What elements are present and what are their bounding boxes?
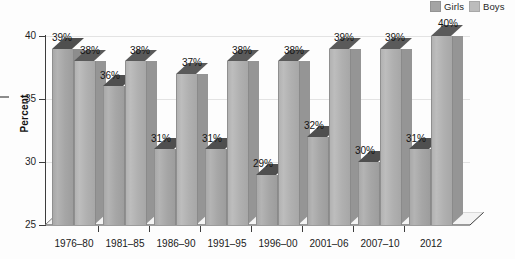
x-tick-label-2012: 2012 bbox=[405, 239, 457, 249]
data-label-girls-1996-00: 29% bbox=[253, 159, 273, 169]
bar-face bbox=[74, 61, 96, 225]
x-tick bbox=[200, 226, 201, 232]
data-label-girls-1981-85: 36% bbox=[100, 71, 120, 81]
bar-boys-1981-85[interactable] bbox=[125, 61, 145, 225]
data-label-boys-2007-10: 39% bbox=[385, 33, 405, 43]
data-label-girls-1976-80: 39% bbox=[52, 33, 72, 43]
bar-boys-1996-00[interactable] bbox=[278, 61, 298, 225]
y-tick-label-25: 25 bbox=[14, 220, 36, 230]
y-axis-line bbox=[45, 35, 46, 226]
bar-face bbox=[358, 162, 380, 225]
x-tick bbox=[149, 226, 150, 232]
bar-face bbox=[125, 61, 147, 225]
bar-face bbox=[256, 175, 278, 225]
bar-girls-1991-95[interactable] bbox=[205, 149, 225, 225]
data-label-girls-1991-95: 31% bbox=[202, 134, 222, 144]
bar-face bbox=[103, 86, 125, 225]
y-tick-label-30: 30 bbox=[14, 157, 36, 167]
y-tick-40 bbox=[39, 36, 45, 37]
bar-girls-1986-90[interactable] bbox=[154, 149, 174, 225]
bar-girls-1981-85[interactable] bbox=[103, 86, 123, 225]
y-tick-30 bbox=[39, 162, 45, 163]
x-tick-label-1991-95: 1991–95 bbox=[201, 239, 253, 249]
x-tick-label-1976-80: 1976–80 bbox=[48, 239, 100, 249]
data-label-boys-1986-90: 37% bbox=[182, 58, 202, 68]
bar-boys-2012[interactable] bbox=[431, 36, 451, 225]
bar-girls-2007-10[interactable] bbox=[358, 162, 378, 225]
y-axis-title: Percent bbox=[19, 84, 30, 144]
x-tick bbox=[353, 226, 354, 232]
data-label-boys-1981-85: 38% bbox=[130, 46, 150, 56]
bar-girls-1996-00[interactable] bbox=[256, 175, 276, 225]
data-label-boys-1996-00: 38% bbox=[284, 46, 304, 56]
y-tick-label-40: 40 bbox=[14, 31, 36, 41]
data-label-boys-1976-80: 38% bbox=[80, 46, 100, 56]
x-tick bbox=[404, 226, 405, 232]
bar-face bbox=[154, 149, 176, 225]
bar-boys-1976-80[interactable] bbox=[74, 61, 94, 225]
bar-face bbox=[278, 61, 300, 225]
x-tick-label-2001-06: 2001–06 bbox=[303, 239, 355, 249]
bar-face bbox=[52, 49, 74, 225]
data-label-boys-2001-06: 39% bbox=[334, 33, 354, 43]
bar-boys-2001-06[interactable] bbox=[329, 49, 349, 225]
x-tick-label-1981-85: 1981–85 bbox=[99, 239, 151, 249]
bar-face bbox=[176, 74, 198, 225]
x-tick bbox=[98, 226, 99, 232]
bar-boys-1991-95[interactable] bbox=[227, 61, 247, 225]
bar-face bbox=[409, 149, 431, 225]
x-tick bbox=[251, 226, 252, 232]
bar-girls-1976-80[interactable] bbox=[52, 49, 72, 225]
bar-boys-2007-10[interactable] bbox=[380, 49, 400, 225]
x-tick-label-1986-90: 1986–90 bbox=[150, 239, 202, 249]
bar-face bbox=[380, 49, 402, 225]
bar-face bbox=[431, 36, 453, 225]
bar-girls-2012[interactable] bbox=[409, 149, 429, 225]
x-tick-label-1996-00: 1996–00 bbox=[252, 239, 304, 249]
bar-boys-1986-90[interactable] bbox=[176, 74, 196, 225]
data-label-boys-1991-95: 38% bbox=[232, 46, 252, 56]
data-label-girls-2012: 31% bbox=[406, 134, 426, 144]
y-tick-35 bbox=[39, 99, 45, 100]
x-tick bbox=[302, 226, 303, 232]
bar-face bbox=[227, 61, 249, 225]
bar-girls-2001-06[interactable] bbox=[307, 137, 327, 225]
chart-canvas: Girls Boys 40 35 30 25 Percent bbox=[0, 0, 515, 259]
gridline-40 bbox=[46, 36, 470, 37]
x-tick-label-2007-10: 2007–10 bbox=[354, 239, 406, 249]
bar-face bbox=[307, 137, 329, 225]
data-label-boys-2012: 40% bbox=[438, 19, 458, 29]
data-label-girls-2001-06: 32% bbox=[304, 121, 324, 131]
bar-face bbox=[329, 49, 351, 225]
data-label-girls-2007-10: 30% bbox=[355, 146, 375, 156]
plot-area: 40 35 30 25 Percent bbox=[0, 0, 515, 259]
data-label-girls-1986-90: 31% bbox=[151, 134, 171, 144]
bar-face bbox=[205, 149, 227, 225]
